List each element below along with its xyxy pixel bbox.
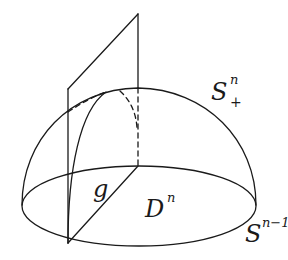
- label-disk: D n: [145, 197, 164, 221]
- label-s-base: S: [211, 78, 227, 106]
- label-boundary-sphere: S n−1: [245, 222, 261, 246]
- plane-top-edge: [68, 14, 138, 89]
- label-d-base: D: [145, 195, 164, 223]
- label-geodesic: g: [93, 177, 108, 201]
- label-d-sup: n: [167, 191, 175, 204]
- label-sn1-base: S: [245, 220, 261, 248]
- label-g: g: [93, 175, 108, 203]
- label-sn1-sup: n−1: [262, 216, 288, 229]
- label-s-sup: n: [230, 73, 238, 86]
- hemisphere-diagram: S n + D n S n−1 g: [0, 0, 288, 260]
- hidden-arc-left: [68, 92, 106, 112]
- label-s-sub: +: [230, 95, 242, 109]
- boundary-ellipse: [22, 166, 256, 246]
- hidden-arc-right: [120, 91, 137, 128]
- label-upper-hemisphere: S n +: [211, 80, 227, 104]
